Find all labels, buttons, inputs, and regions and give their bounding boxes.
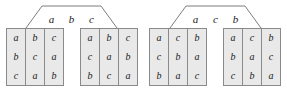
- table-row: a b c: [81, 29, 138, 48]
- table-cell: a: [169, 66, 188, 85]
- table-row: b a c: [224, 48, 281, 67]
- left-group-tables: a b c b c a c a b: [0, 28, 149, 86]
- header-letter: b: [231, 14, 241, 25]
- latin-table: a b c b c a c a b: [6, 28, 64, 86]
- table-cell: c: [119, 29, 138, 48]
- table-cell: c: [224, 66, 243, 85]
- table-cell: a: [100, 48, 119, 67]
- header-letter: a: [191, 14, 201, 25]
- table-cell: c: [243, 29, 262, 48]
- table-row: c b a: [224, 66, 281, 85]
- table-cell: b: [119, 48, 138, 67]
- right-group: a c b a c b c b a b: [144, 0, 287, 94]
- table-cell: a: [188, 48, 207, 67]
- table-cell: a: [262, 66, 281, 85]
- header-letter: b: [67, 14, 77, 25]
- table-row: c a b: [7, 66, 64, 85]
- table-row: c a b: [81, 48, 138, 67]
- table-cell: a: [45, 48, 64, 67]
- table-cell: c: [100, 66, 119, 85]
- table-cell: c: [7, 66, 26, 85]
- table-row: a c b: [150, 29, 207, 48]
- table-cell: b: [224, 48, 243, 67]
- table-cell: b: [169, 48, 188, 67]
- table-cell: b: [243, 66, 262, 85]
- right-group-tables: a c b c b a b a c: [144, 28, 287, 86]
- table-row: a b c: [7, 29, 64, 48]
- latin-table: a b c c a b b c a: [80, 28, 138, 86]
- left-group: a b c a b c b c a c: [0, 0, 143, 94]
- table-cell: b: [262, 29, 281, 48]
- table-cell: a: [7, 29, 26, 48]
- table-cell: a: [119, 66, 138, 85]
- header-letter: a: [47, 14, 57, 25]
- table-cell: c: [45, 29, 64, 48]
- table-cell: c: [188, 66, 207, 85]
- table-row: b c a: [81, 66, 138, 85]
- table-cell: b: [100, 29, 119, 48]
- table-cell: a: [224, 29, 243, 48]
- header-letter: c: [87, 14, 97, 25]
- table-row: c b a: [150, 48, 207, 67]
- table-cell: a: [150, 29, 169, 48]
- table-row: b c a: [7, 48, 64, 67]
- table-cell: c: [26, 48, 45, 67]
- table-cell: b: [45, 66, 64, 85]
- table-cell: a: [26, 66, 45, 85]
- right-group-header: a c b: [144, 12, 287, 26]
- table-cell: c: [262, 48, 281, 67]
- table-cell: c: [169, 29, 188, 48]
- table-row: a c b: [224, 29, 281, 48]
- latin-table: a c b c b a b a c: [149, 28, 207, 86]
- table-cell: a: [243, 48, 262, 67]
- table-cell: b: [7, 48, 26, 67]
- table-cell: c: [81, 48, 100, 67]
- left-group-header: a b c: [0, 12, 143, 26]
- latin-square-figure: a b c a b c b c a c: [0, 0, 287, 94]
- table-cell: a: [81, 29, 100, 48]
- table-cell: b: [150, 66, 169, 85]
- header-letter: c: [211, 14, 221, 25]
- table-cell: b: [81, 66, 100, 85]
- table-cell: b: [26, 29, 45, 48]
- latin-table: a c b b a c c b a: [223, 28, 281, 86]
- table-cell: b: [188, 29, 207, 48]
- table-cell: c: [150, 48, 169, 67]
- table-row: b a c: [150, 66, 207, 85]
